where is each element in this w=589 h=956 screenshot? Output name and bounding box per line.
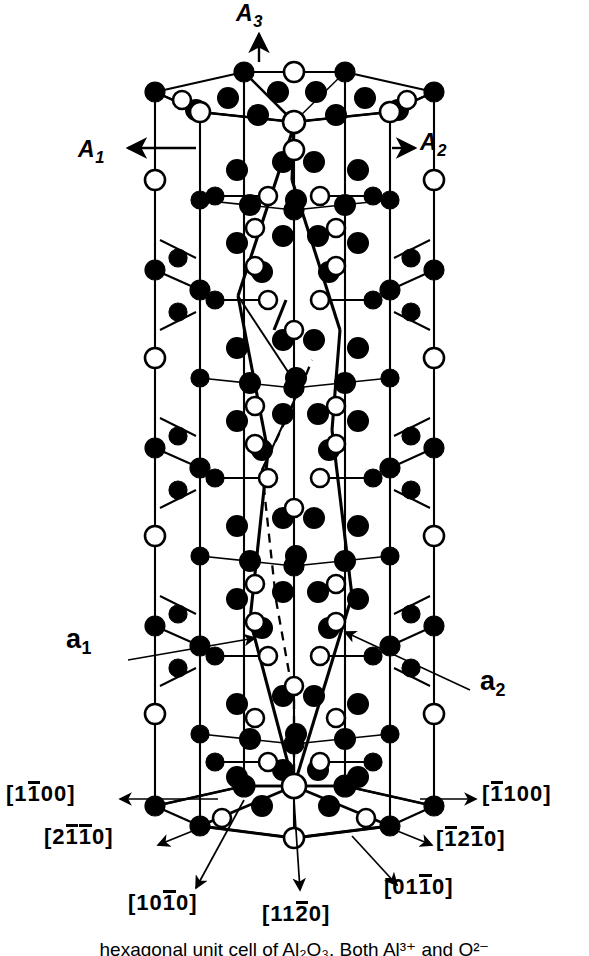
a2-vector-arrow xyxy=(345,632,470,690)
lattice-structure xyxy=(120,34,476,890)
miller-label-1010: [1010] xyxy=(128,892,198,914)
miller-label-1100-right: [1100] xyxy=(482,783,552,805)
axis-label-a2: A2 xyxy=(420,131,447,159)
miller-label-1210-right: [1210] xyxy=(436,828,506,850)
arrow-2110-left xyxy=(158,828,200,845)
figure-caption: hexagonal unit cell of Al₂O₃. Both Al³⁺ … xyxy=(0,938,589,956)
miller-label-1100-left: [1100] xyxy=(6,783,76,805)
miller-label-0110: [0110] xyxy=(384,876,454,898)
vector-label-a1: a1 xyxy=(66,626,92,658)
miller-label-1120: [1120] xyxy=(262,903,330,925)
arrow-1210-right xyxy=(390,828,432,845)
miller-label-2110-left: [2110] xyxy=(44,826,114,848)
vector-label-a2: a2 xyxy=(480,668,506,700)
axis-label-a3: A3 xyxy=(236,2,263,30)
axis-label-a1: A1 xyxy=(78,138,105,166)
